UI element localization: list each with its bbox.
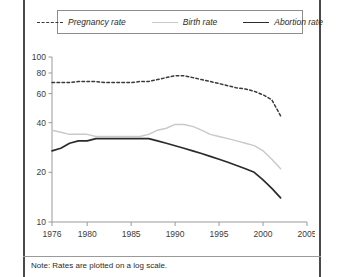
legend-label: Abortion rate	[274, 18, 323, 27]
svg-text:40: 40	[37, 118, 47, 128]
svg-text:100: 100	[32, 52, 46, 62]
right-border-rule	[319, 0, 321, 277]
svg-text:80: 80	[37, 68, 47, 78]
chart-footnote: Note: Rates are plotted on a log scale.	[31, 261, 167, 270]
svg-text:1976: 1976	[43, 229, 62, 239]
solid-line-icon	[152, 19, 178, 26]
solid-line-icon	[243, 19, 269, 26]
svg-text:1980: 1980	[78, 229, 97, 239]
svg-text:10: 10	[37, 217, 47, 227]
svg-text:1985: 1985	[122, 229, 141, 239]
svg-text:1995: 1995	[210, 229, 229, 239]
svg-text:20: 20	[37, 167, 47, 177]
legend-item-pregnancy-rate: Pregnancy rate	[37, 18, 126, 27]
svg-text:2005: 2005	[298, 229, 315, 239]
legend-item-abortion-rate: Abortion rate	[243, 18, 323, 27]
chart-canvas: 1008060402010197619801985199019952000200…	[30, 48, 315, 244]
legend-item-birth-rate: Birth rate	[152, 18, 218, 27]
legend-label: Pregnancy rate	[68, 18, 126, 27]
footnote-divider	[23, 256, 321, 257]
svg-text:1990: 1990	[166, 229, 185, 239]
chart-legend: Pregnancy rate Birth rate Abortion rate	[57, 10, 303, 34]
left-border-rule	[23, 0, 25, 277]
plot-area: 1008060402010197619801985199019952000200…	[30, 48, 315, 244]
svg-text:2000: 2000	[254, 229, 273, 239]
svg-text:60: 60	[37, 89, 47, 99]
legend-label: Birth rate	[183, 18, 218, 27]
chart-figure: Pregnancy rate Birth rate Abortion rate …	[0, 0, 340, 277]
dotted-line-icon	[37, 19, 63, 26]
